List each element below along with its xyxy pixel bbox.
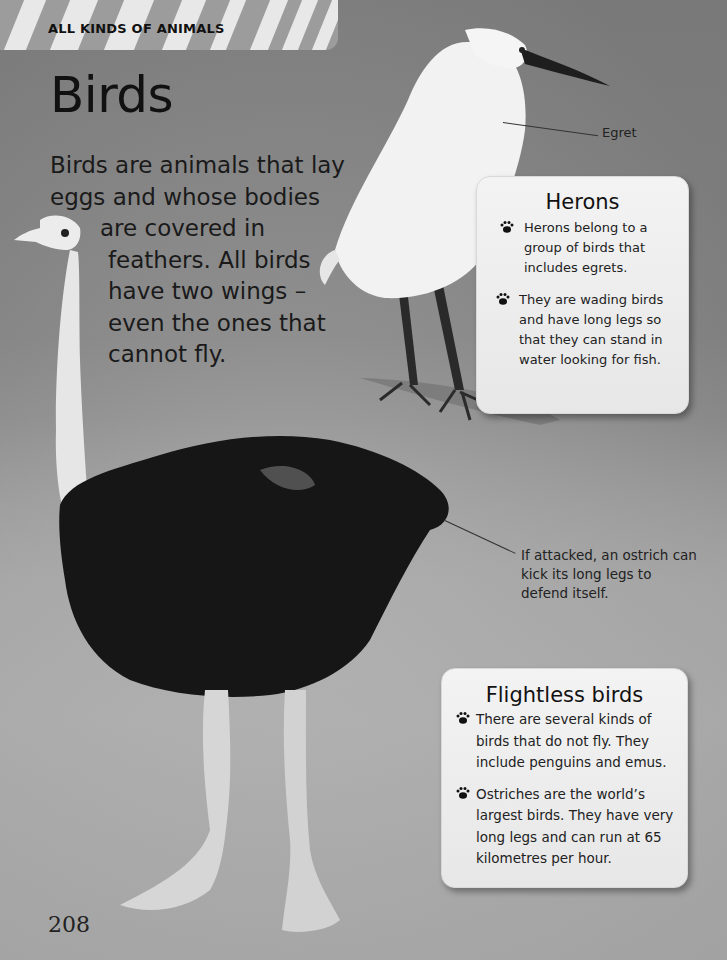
bullet-item: There are several kinds of birds that do…: [456, 709, 679, 774]
egret-label: Egret: [602, 125, 637, 140]
paw-print-icon: [456, 786, 470, 800]
paw-print-icon: [456, 711, 470, 725]
intro-line: Birds are animals that lay: [50, 150, 350, 182]
ostrich-callout: If attacked, an ostrich can kick its lon…: [521, 546, 701, 603]
bullet-item: They are wading birds and have long legs…: [500, 290, 680, 370]
page-title: Birds: [50, 66, 173, 124]
intro-line: feathers. All birds: [50, 245, 350, 277]
bullet-text: Herons belong to a group of birds that i…: [524, 220, 648, 275]
bullet-text: They are wading birds and have long legs…: [519, 292, 663, 367]
paw-print-icon: [500, 220, 514, 234]
intro-line: have two wings –: [50, 276, 350, 308]
intro-line: eggs and whose bodies: [50, 182, 350, 214]
intro-line: are covered in: [50, 213, 350, 245]
flightless-title: Flightless birds: [442, 683, 687, 707]
intro-paragraph: Birds are animals that lay eggs and whos…: [50, 150, 350, 371]
paw-print-icon: [496, 292, 510, 306]
page-number: 208: [48, 912, 90, 937]
bullet-item: Herons belong to a group of birds that i…: [500, 218, 680, 278]
flightless-birds-info-box: Flightless birds There are several kinds…: [441, 668, 688, 888]
herons-title: Herons: [477, 190, 688, 214]
flightless-bullets: There are several kinds of birds that do…: [442, 709, 687, 870]
herons-info-box: Herons Herons belong to a group of birds…: [476, 176, 689, 414]
intro-line: even the ones that: [50, 308, 350, 340]
bullet-text: Ostriches are the world’s largest birds.…: [476, 786, 673, 867]
book-page: ALL KINDS OF ANIMALS Birds Birds a: [0, 0, 727, 960]
bullet-item: Ostriches are the world’s largest birds.…: [456, 784, 679, 870]
intro-line: cannot fly.: [50, 339, 350, 371]
bullet-text: There are several kinds of birds that do…: [476, 711, 666, 770]
herons-bullets: Herons belong to a group of birds that i…: [477, 218, 688, 370]
